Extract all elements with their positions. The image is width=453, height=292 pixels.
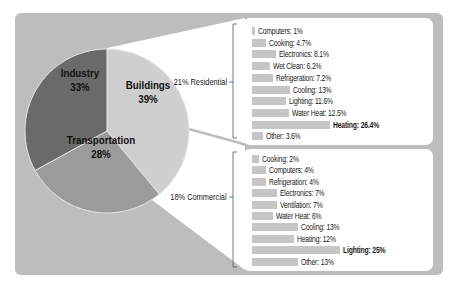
pie-label-transportation-pct: 28% [63,147,140,161]
commercial-group-label: 18% Commercial [171,192,227,202]
bar [252,166,266,174]
bar-label: Computers: 4% [269,165,314,175]
bar [252,178,266,186]
bar-label: Water Heat: 6% [276,211,321,221]
bar [252,86,290,94]
bar-label: Cooling: 13% [301,222,340,232]
residential-group-label: 21% Residential [174,77,227,87]
pie-label-industry-pct: 33% [55,80,106,94]
bar-label: Cooking: 2% [262,154,299,164]
bar [252,223,298,231]
pie-label-buildings: Buildings 39% [123,78,174,106]
bar-label: Ventilation: 7% [280,200,323,210]
bar-label: Other: 13% [301,257,334,267]
bar [252,132,263,140]
pie-label-industry: Industry 33% [55,66,106,94]
bar-label: Lighting: 25% [343,245,385,255]
bar [252,121,330,129]
bar-label: Heating: 12% [297,234,336,244]
bar-label: Lighting: 11.6% [289,96,333,106]
pie-chart [25,49,189,213]
bar-label: Heating: 26.4% [333,120,379,130]
bar-label: Wet Clean: 6.2% [273,61,321,71]
bar [252,27,255,35]
bar-label: Electronics: 8.1% [279,49,329,59]
bar [252,189,277,197]
bar [252,235,294,243]
bar [252,97,286,105]
bar [252,39,266,47]
bar-label: Other: 3.6% [266,131,301,141]
pie-label-buildings-name: Buildings [123,78,174,92]
bar-label: Electronics: 7% [280,188,324,198]
bar [252,109,289,117]
bar [252,62,270,70]
bar [252,201,277,209]
bar-label: Refrigeration: 7.2% [276,73,331,83]
pie-label-transportation: Transportation 28% [63,133,140,161]
bar [252,74,273,82]
pie-label-industry-name: Industry [55,66,106,80]
bar [252,212,273,220]
bar [252,155,259,163]
chart-figure: Industry 33% Buildings 39% Transportatio… [0,0,453,292]
bar [252,246,340,254]
bar-label: Cooling: 13% [293,85,332,95]
bar [252,258,298,266]
bar-label: Cooking: 4.7% [269,38,311,48]
pie-label-transportation-name: Transportation [63,133,140,147]
bar [252,50,276,58]
pie-label-buildings-pct: 39% [123,92,174,106]
bar-label: Computers: 1% [258,26,303,36]
bar-label: Water Heat: 12.5% [292,108,346,118]
bar-label: Refrigeration: 4% [269,177,319,187]
